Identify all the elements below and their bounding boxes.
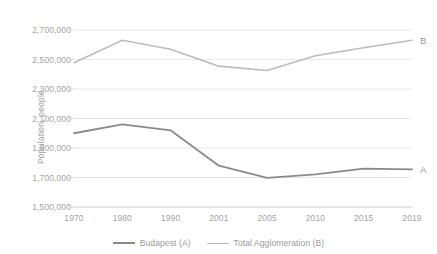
x-axis-tick-label: 2015: [354, 213, 373, 223]
legend-line-swatch: [113, 242, 135, 244]
x-axis-tick-label: 1980: [113, 213, 132, 223]
y-axis-tick-labels: 1,500,0001,700,0001,900,0002,100,0002,30…: [18, 0, 71, 254]
x-axis-tick-label: 2005: [257, 213, 276, 223]
legend-line-swatch: [207, 243, 229, 244]
y-axis-tick-label: 1,500,000: [32, 202, 71, 212]
x-axis-tick-label: 1990: [161, 213, 180, 223]
legend-item[interactable]: Budapest (A): [113, 238, 191, 248]
y-axis-tick-label: 2,700,000: [32, 25, 71, 35]
x-axis-tick-label: 2019: [402, 213, 421, 223]
y-axis-tick-label: 1,700,000: [32, 173, 71, 183]
chart-legend: Budapest (A)Total Agglomeration (B): [0, 238, 437, 248]
y-axis-tick-label: 2,100,000: [32, 114, 71, 124]
y-axis-tick-label: 1,900,000: [32, 143, 71, 153]
gridlines: [74, 30, 412, 207]
legend-label: Total Agglomeration (B): [234, 238, 325, 248]
series-end-label: B: [420, 35, 426, 46]
y-axis-tick-label: 2,500,000: [32, 55, 71, 65]
legend-label: Budapest (A): [140, 238, 191, 248]
series-end-label: A: [420, 164, 426, 175]
x-axis-tick-label: 1970: [64, 213, 83, 223]
line-chart: Population, people 1,500,0001,700,0001,9…: [0, 0, 437, 254]
series-line: [74, 40, 412, 70]
x-axis-tick-label: 2001: [209, 213, 228, 223]
series-line: [74, 124, 412, 178]
series-lines: [74, 40, 412, 178]
x-axis-tick-label: 2010: [306, 213, 325, 223]
y-axis-tick-label: 2,300,000: [32, 84, 71, 94]
legend-item[interactable]: Total Agglomeration (B): [207, 238, 325, 248]
